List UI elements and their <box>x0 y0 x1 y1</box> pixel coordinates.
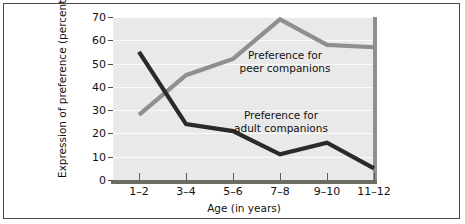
x-axis-tick <box>139 173 140 180</box>
y-axis-tick <box>108 133 113 134</box>
annotation-adult-companions: Preference for adult companions <box>212 109 350 135</box>
y-tick-labels: 70 60 50 40 30 20 10 0 <box>74 4 106 218</box>
y-axis-tick <box>108 87 113 88</box>
x-axis-tick <box>374 173 375 180</box>
y-tick-label-40: 40 <box>80 82 106 93</box>
y-tick-label-50: 50 <box>80 59 106 70</box>
x-axis-title: Age (in years) <box>113 202 375 214</box>
annotation-adult-line2: adult companions <box>212 122 350 135</box>
y-axis-tick <box>108 157 113 158</box>
x-axis-line <box>111 180 377 184</box>
y-axis-tick <box>108 180 113 181</box>
plot-region <box>113 17 375 180</box>
y-tick-label-60: 60 <box>80 35 106 46</box>
y-axis-tick <box>108 64 113 65</box>
gridline <box>113 87 375 88</box>
annotation-peer-line1: Preference for <box>222 49 348 62</box>
gridline <box>113 17 375 18</box>
annotation-adult-line1: Preference for <box>212 109 350 122</box>
x-axis-tick <box>233 173 234 180</box>
line-chart: 1–2 3–4 5–6 7–8 9–10 11–12 Age (in years… <box>4 4 461 218</box>
x-tick-label-5: 11–12 <box>345 186 403 198</box>
y-tick-label-70: 70 <box>80 12 106 23</box>
y-tick-label-10: 10 <box>80 152 106 163</box>
y-tick-label-0: 0 <box>80 175 106 186</box>
annotation-peer-line2: peer companions <box>222 62 348 75</box>
y-axis-title: Expression of preference (percent) <box>56 18 68 178</box>
y-axis-tick <box>108 110 113 111</box>
gridline <box>113 157 375 158</box>
y-axis-tick <box>108 40 113 41</box>
plot-right-border <box>373 17 377 184</box>
x-axis-tick <box>327 173 328 180</box>
figure-frame: 1–2 3–4 5–6 7–8 9–10 11–12 Age (in years… <box>3 3 460 219</box>
gridline <box>113 40 375 41</box>
x-axis-tick <box>280 173 281 180</box>
y-tick-label-20: 20 <box>80 128 106 139</box>
y-axis-tick <box>108 17 113 18</box>
y-tick-label-30: 30 <box>80 105 106 116</box>
annotation-peer-companions: Preference for peer companions <box>222 49 348 75</box>
x-axis-tick <box>186 173 187 180</box>
